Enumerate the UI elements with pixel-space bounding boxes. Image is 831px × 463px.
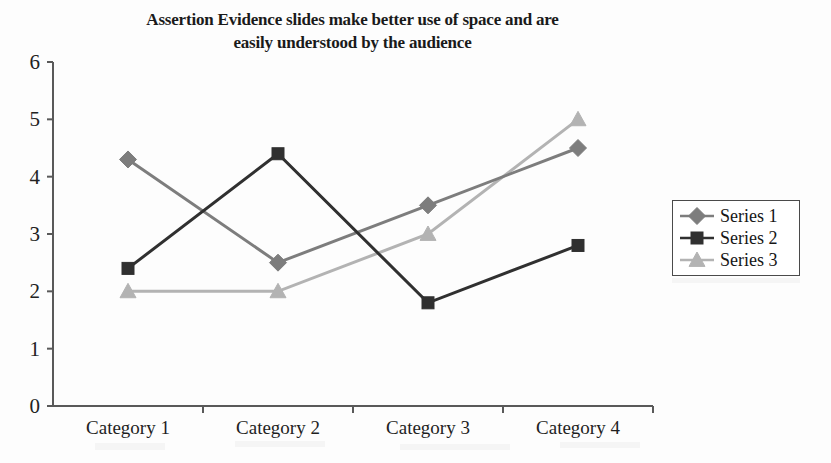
y-axis-tick-label: 3 (30, 222, 41, 246)
scan-artifact (672, 278, 800, 283)
marker-diamond (120, 151, 137, 168)
y-axis-tick-label: 5 (30, 107, 41, 131)
scan-artifact (235, 441, 325, 447)
scan-artifact (95, 443, 165, 450)
y-axis-tick-label: 2 (30, 279, 41, 303)
series-line (128, 154, 578, 303)
scan-artifact (400, 444, 510, 450)
y-axis-tick-label: 4 (30, 165, 41, 189)
y-axis-tick-label: 6 (30, 50, 41, 74)
marker-square (272, 148, 284, 160)
scan-artifact (560, 442, 640, 448)
legend-marker-triangle-icon (678, 250, 716, 270)
x-axis-category-label: Category 3 (386, 417, 470, 438)
x-axis-category-label: Category 2 (236, 417, 320, 438)
marker-triangle (570, 111, 586, 125)
x-axis-category-labels: Category 1Category 2Category 3Category 4 (86, 417, 620, 438)
marker-diamond (270, 254, 287, 271)
series-line (128, 148, 578, 263)
legend-marker-diamond-icon (678, 206, 716, 226)
data-series-group (120, 111, 587, 308)
y-axis-tick-labels: 0123456 (30, 50, 41, 418)
x-axis-category-label: Category 1 (86, 417, 170, 438)
legend-marker-square-icon (678, 228, 716, 248)
marker-diamond (570, 140, 587, 157)
legend-label: Series 3 (716, 250, 778, 271)
marker-square (691, 232, 703, 244)
marker-square (122, 262, 134, 274)
legend-item-series-3: Series 3 (678, 249, 793, 271)
chart-legend: Series 1Series 2Series 3 (672, 200, 800, 276)
legend-label: Series 2 (716, 228, 778, 249)
legend-label: Series 1 (716, 206, 778, 227)
x-axis-category-label: Category 4 (536, 417, 620, 438)
axes (47, 62, 653, 413)
legend-item-series-2: Series 2 (678, 227, 793, 249)
marker-diamond (420, 197, 437, 214)
marker-diamond (689, 208, 706, 225)
y-axis-tick-label: 1 (30, 337, 41, 361)
marker-square (572, 239, 584, 251)
legend-item-series-1: Series 1 (678, 205, 793, 227)
chart-page: Assertion Evidence slides make better us… (0, 0, 831, 463)
y-axis-tick-label: 0 (30, 394, 41, 418)
marker-square (422, 297, 434, 309)
series-1 (120, 140, 587, 272)
